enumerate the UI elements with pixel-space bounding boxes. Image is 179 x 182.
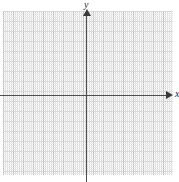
- x-axis-arrow-icon: [166, 91, 173, 99]
- x-axis-line: [0, 95, 168, 96]
- x-axis-label: x: [175, 89, 179, 99]
- grid-background: [3, 11, 173, 175]
- y-axis-arrow-icon: [83, 9, 91, 16]
- coordinate-grid-figure: y x: [0, 0, 179, 182]
- y-axis-label: y: [84, 0, 88, 10]
- y-axis-line: [86, 12, 87, 182]
